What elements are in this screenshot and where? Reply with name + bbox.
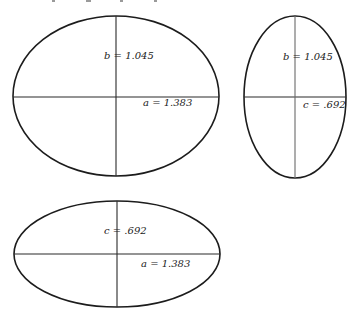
ellipse-diagram: b = 1.045 a = 1.383 b = 1.045 c = .692 c… bbox=[0, 0, 355, 316]
ellipse-ac-section: c = .692 a = 1.383 bbox=[14, 201, 220, 307]
label-c: c = .692 bbox=[303, 99, 346, 110]
ellipse-bc-section: b = 1.045 c = .692 bbox=[244, 16, 346, 178]
label-a: a = 1.383 bbox=[141, 258, 190, 269]
cropped-text-remnants bbox=[52, 0, 157, 2]
label-c: c = .692 bbox=[104, 225, 147, 236]
label-b: b = 1.045 bbox=[283, 51, 333, 62]
label-b: b = 1.045 bbox=[104, 50, 154, 61]
label-a: a = 1.383 bbox=[143, 97, 192, 108]
ellipse-ab-section: b = 1.045 a = 1.383 bbox=[13, 16, 219, 176]
